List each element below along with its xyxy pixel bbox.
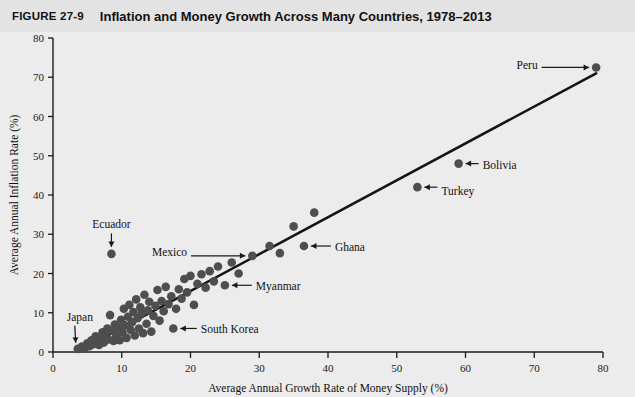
data-point: [106, 311, 115, 320]
data-point: [413, 183, 422, 192]
data-point: [214, 262, 223, 271]
annotation-label: Ecuador: [92, 218, 130, 230]
chart-plot-area: 0102030405060708001020304050607080Averag…: [0, 32, 635, 397]
data-point: [201, 283, 210, 292]
annotation-label: Mexico: [152, 246, 187, 258]
data-point: [172, 305, 181, 314]
data-point: [454, 159, 463, 168]
annotation-arrowhead: [232, 282, 238, 288]
data-point: [159, 307, 168, 316]
data-point: [190, 301, 199, 310]
x-tick-label: 0: [50, 362, 56, 374]
x-tick-label: 40: [323, 362, 335, 374]
y-tick-label: 70: [33, 71, 45, 83]
x-tick-label: 80: [598, 362, 610, 374]
annotation-label: Bolivia: [483, 159, 517, 171]
annotation-label: Myanmar: [256, 280, 301, 293]
annotation-arrowhead: [424, 184, 430, 190]
y-tick-label: 10: [33, 307, 45, 319]
annotation-arrowhead: [72, 337, 78, 343]
y-tick-label: 50: [33, 150, 45, 162]
data-point: [197, 270, 206, 279]
x-tick-label: 30: [254, 362, 266, 374]
data-point: [142, 319, 151, 328]
data-point: [205, 267, 214, 276]
data-point: [139, 329, 148, 338]
data-point: [289, 222, 298, 231]
y-tick-label: 0: [39, 346, 45, 358]
data-point: [186, 272, 195, 281]
data-point: [107, 250, 116, 259]
data-point: [167, 292, 176, 301]
annotation-arrowhead: [240, 253, 246, 259]
figure-number: FIGURE 27-9: [12, 10, 84, 22]
data-point: [175, 285, 184, 294]
y-tick-label: 30: [33, 228, 45, 240]
data-point: [164, 300, 173, 309]
annotation-label: Japan: [67, 311, 93, 324]
data-point: [161, 283, 170, 292]
data-point: [265, 242, 274, 251]
y-tick-label: 60: [33, 111, 45, 123]
figure-title: Inflation and Money Growth Across Many C…: [100, 9, 492, 24]
data-point: [221, 281, 230, 290]
y-tick-label: 40: [33, 189, 45, 201]
scatter-chart: 0102030405060708001020304050607080Averag…: [0, 32, 635, 397]
data-point: [248, 252, 257, 261]
data-point: [183, 288, 192, 297]
data-point: [155, 316, 164, 325]
annotation-label: South Korea: [201, 323, 259, 335]
data-point: [122, 334, 131, 343]
x-tick-label: 20: [185, 362, 197, 374]
data-point: [300, 242, 309, 251]
data-point: [169, 324, 178, 333]
y-tick-label: 20: [33, 268, 45, 280]
data-point: [227, 258, 236, 267]
y-axis-title: Average Annual Inflation Rate (%): [8, 114, 21, 275]
data-point: [310, 208, 319, 217]
x-tick-label: 60: [460, 362, 472, 374]
x-tick-label: 10: [116, 362, 128, 374]
data-point: [140, 290, 149, 299]
data-point: [276, 249, 285, 258]
annotation-arrowhead: [466, 161, 472, 167]
x-tick-label: 50: [391, 362, 403, 374]
y-tick-label: 80: [33, 32, 45, 44]
data-point: [193, 279, 202, 288]
annotation-arrowhead: [311, 243, 317, 249]
data-point: [153, 286, 162, 295]
data-point: [210, 277, 219, 286]
figure-container: FIGURE 27-9 Inflation and Money Growth A…: [0, 0, 635, 397]
x-axis-title: Average Annual Growth Rate of Money Supp…: [208, 382, 448, 395]
figure-title-bar: FIGURE 27-9 Inflation and Money Growth A…: [0, 0, 635, 32]
data-point: [147, 327, 156, 336]
annotation-label: Peru: [517, 59, 538, 71]
data-point: [234, 269, 243, 278]
annotation-arrowhead: [180, 325, 186, 331]
x-tick-label: 70: [529, 362, 541, 374]
annotation-label: Ghana: [335, 241, 365, 253]
annotation-arrowhead: [108, 241, 114, 247]
annotation-arrowhead: [584, 64, 590, 70]
data-point: [132, 295, 141, 304]
data-point: [592, 63, 601, 72]
annotation-label: Turkey: [441, 185, 474, 198]
